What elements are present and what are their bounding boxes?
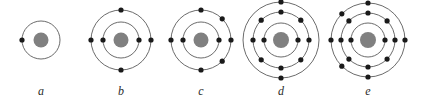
- electron-icon: [278, 9, 283, 14]
- electron-icon: [278, 0, 283, 5]
- electron-icon: [384, 56, 389, 61]
- electron-icon: [250, 37, 255, 42]
- electron-icon: [216, 37, 221, 42]
- atom-label-b: b: [83, 84, 159, 98]
- electron-icon: [180, 37, 185, 42]
- electron-icon: [339, 11, 344, 16]
- atom-label-a: a: [14, 84, 68, 98]
- atom-label-e: e: [323, 84, 413, 98]
- electron-icon: [365, 64, 370, 69]
- electron-icon: [148, 37, 153, 42]
- nucleus-icon: [273, 32, 289, 48]
- electron-icon: [346, 56, 351, 61]
- electron-icon: [339, 64, 344, 69]
- electron-icon: [365, 74, 370, 79]
- electron-icon: [259, 18, 264, 23]
- electron-icon: [198, 67, 203, 72]
- electron-icon: [402, 37, 407, 42]
- atom-diagram-b: b: [83, 0, 159, 100]
- electron-icon: [392, 37, 397, 42]
- atom-diagram-e: e: [323, 0, 413, 100]
- electron-icon: [19, 37, 24, 42]
- electron-icon: [298, 57, 303, 62]
- electron-icon: [338, 37, 343, 42]
- electron-icon: [88, 37, 93, 42]
- electron-icon: [168, 37, 173, 42]
- atom-label-c: c: [163, 84, 239, 98]
- atomic-shell-diagram-figure: abcde: [0, 0, 424, 100]
- electron-icon: [118, 67, 123, 72]
- electron-icon: [365, 0, 370, 5]
- nucleus-icon: [360, 32, 376, 48]
- electron-icon: [382, 37, 387, 42]
- electron-icon: [118, 7, 123, 12]
- atom-diagram-c: c: [163, 0, 239, 100]
- electron-icon: [228, 37, 233, 42]
- electron-icon: [259, 57, 264, 62]
- atom-label-d: d: [235, 84, 327, 98]
- electron-icon: [346, 18, 351, 23]
- electron-icon: [198, 7, 203, 12]
- atom-diagram-a: a: [14, 0, 68, 100]
- electron-icon: [328, 37, 333, 42]
- nucleus-icon: [34, 33, 49, 48]
- electron-icon: [261, 37, 266, 42]
- electron-icon: [100, 37, 105, 42]
- nucleus-icon: [114, 33, 129, 48]
- electron-icon: [365, 10, 370, 15]
- nucleus-icon: [194, 33, 209, 48]
- atom-diagram-d: d: [235, 0, 327, 100]
- electron-icon: [348, 37, 353, 42]
- electron-icon: [384, 18, 389, 23]
- electron-icon: [136, 37, 141, 42]
- electron-icon: [278, 75, 283, 80]
- electron-icon: [278, 65, 283, 70]
- electron-icon: [295, 37, 300, 42]
- electron-icon: [220, 16, 225, 21]
- electron-icon: [220, 59, 225, 64]
- electron-icon: [306, 37, 311, 42]
- electron-icon: [298, 18, 303, 23]
